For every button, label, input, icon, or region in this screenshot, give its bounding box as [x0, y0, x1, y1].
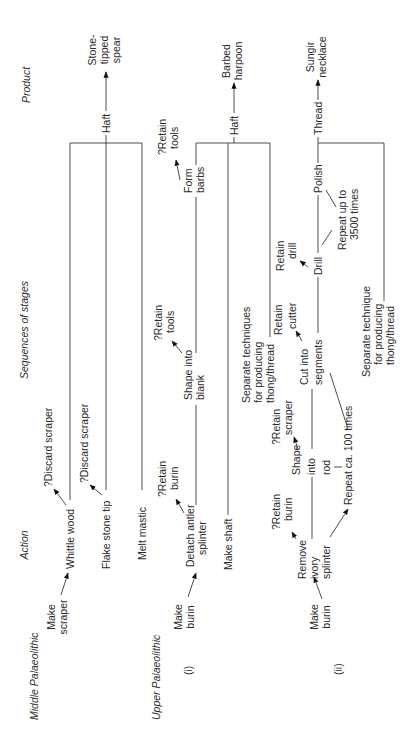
detach-l1: Detach antler [184, 504, 196, 567]
diagram-canvas: Action Sequences of stages Product Middl… [0, 0, 413, 745]
retain-cutter-l2: cutter [286, 302, 298, 329]
make-burin-l2: burin [184, 605, 196, 629]
arrow-icon [176, 160, 180, 180]
connector-line [326, 190, 336, 207]
operational-sequence-diagram: Action Sequences of stages Product Middl… [0, 0, 413, 745]
retain-drill-l1: Retain [274, 240, 286, 271]
connector-line [322, 230, 332, 245]
arrow-icon [176, 499, 184, 513]
cut-l2: segments [312, 339, 324, 385]
detach-l2: splinter [196, 521, 208, 555]
arrow-icon [330, 509, 348, 537]
upper-palaeolithic-title: Upper Palaeolithic [150, 634, 162, 720]
separate-i-l1: Separate techniques [240, 307, 252, 403]
arrow-icon [292, 532, 296, 539]
separate-ii-l2: for producing [372, 304, 384, 365]
haft-label: Haft [100, 114, 112, 133]
repeat-100: Repeat ca. 100 times [342, 406, 354, 505]
make-burin-l1: Make [172, 604, 184, 630]
shape-blank-l1: Shape into [182, 350, 194, 400]
whittle-wood: Whittle wood [64, 509, 76, 569]
label-ii: (ii) [332, 663, 344, 675]
product-l2: tipped [98, 36, 110, 65]
arrow-icon [54, 489, 66, 505]
arrow-icon [314, 577, 322, 599]
retain-cutter-l1: Retain [272, 304, 284, 335]
retain-tools2-l2: tools [168, 127, 180, 149]
arrow-icon [300, 261, 308, 267]
cut-l1: Cut into [298, 349, 310, 385]
header-sequences: Sequences of stages [18, 280, 30, 379]
retain-tools1-l1: ?Retain [152, 305, 164, 341]
make-shaft: Make shaft [222, 519, 234, 570]
repeat-3500-l2: 3500 times [348, 189, 360, 240]
product-i-l2: harpoon [232, 42, 244, 81]
retain-tools1-l2: tools [164, 311, 176, 333]
form-barbs-l1: Form [182, 168, 194, 193]
remove-l2: ivory [308, 556, 320, 579]
header-product: Product [20, 66, 32, 103]
drill-label: Drill [312, 257, 324, 275]
product-i-l1: Barbed [220, 44, 232, 78]
retain-tools2-l1: ?Retain [156, 119, 168, 155]
retain-scraper-l1: ?Retain [270, 409, 282, 445]
shape-rod-l2: into [305, 458, 317, 475]
repeat-3500-l1: Repeat up to [336, 190, 348, 250]
label-i: (i) [182, 666, 194, 675]
remove-l3: splinter [320, 545, 332, 579]
separate-i-l2: for producing [252, 342, 264, 403]
retain-burin-ii-l1: ?Retain [270, 494, 282, 530]
separate-ii-l1: Separate technique [360, 286, 372, 377]
product-ii-l2: necklace [316, 36, 328, 78]
retain-drill-l2: drill [286, 243, 298, 259]
product-l1: Stone- [86, 34, 98, 65]
make-scraper-l1: Make [45, 604, 57, 630]
make-burin-ii-l2: burin [320, 605, 332, 629]
arrow-icon [172, 341, 182, 353]
shape-rod-l3: rod [320, 460, 332, 475]
separate-ii-l3: thong/thread [384, 306, 396, 365]
polish-label: Polish [312, 164, 324, 193]
middle-palaeolithic-title: Middle Palaeolithic [28, 632, 40, 720]
separate-i-l3: thong/thread [264, 344, 276, 403]
discard-scraper-2: ?Discard scraper [78, 403, 90, 483]
retain-scraper-l2: scraper [282, 399, 294, 435]
haft-label-i: Haft [228, 116, 240, 135]
make-burin-ii-l1: Make [308, 604, 320, 630]
connector-line [330, 373, 348, 429]
arrow-icon [90, 485, 102, 495]
discard-scraper-1: ?Discard scraper [42, 407, 54, 487]
thread-label: Thread [312, 102, 324, 135]
remove-l1: Remove [296, 540, 308, 579]
flake-stone-tip: Flake stone tip [100, 501, 112, 569]
product-ii-l1: Sungir [304, 41, 316, 72]
arrow-icon [188, 573, 196, 597]
arrow-icon [296, 331, 302, 341]
melt-mastic: Melt mastic [136, 507, 148, 560]
retain-burin-l2: burin [168, 466, 180, 490]
product-l3: spear [110, 36, 122, 63]
shape-rod-l1: Shape [290, 444, 302, 475]
retain-burin-l1: ?Retain [156, 461, 168, 497]
header-action: Action [18, 530, 30, 560]
form-barbs-l2: barbs [194, 167, 206, 193]
shape-blank-l2: blank [194, 374, 206, 400]
arrow-icon [61, 573, 68, 595]
retain-burin-ii-l2: burin [282, 497, 294, 521]
make-scraper-l2: scraper [57, 599, 69, 635]
